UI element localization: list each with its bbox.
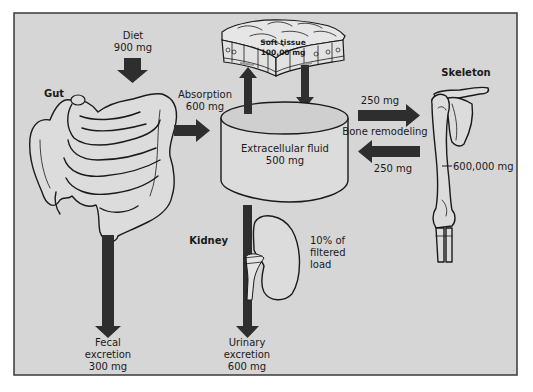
svg-text:100,00 mg: 100,00 mg <box>261 48 306 57</box>
diet-label: Diet <box>123 30 144 41</box>
svg-text:excretion: excretion <box>224 349 270 360</box>
bone-resorption-amount: 250 mg <box>374 163 412 174</box>
svg-text:excretion: excretion <box>85 349 131 360</box>
svg-text:300 mg: 300 mg <box>89 361 127 372</box>
svg-text:Absorption: Absorption <box>178 89 232 100</box>
gut-label: Gut <box>44 88 64 99</box>
kidney-label: Kidney <box>189 235 228 246</box>
svg-text:Soft tissue: Soft tissue <box>260 38 306 47</box>
svg-text:Urinary: Urinary <box>229 337 266 348</box>
urinary-excretion-label: Urinary excretion 600 mg <box>224 337 270 372</box>
svg-text:load: load <box>310 259 331 270</box>
diet-amount: 900 mg <box>114 42 152 53</box>
skeleton-label: Skeleton <box>441 67 490 78</box>
absorption-label: Absorption 600 mg <box>178 89 232 112</box>
bone-remodeling-label: Bone remodeling <box>342 126 427 137</box>
svg-text:500 mg: 500 mg <box>266 155 304 166</box>
svg-text:600 mg: 600 mg <box>228 361 266 372</box>
calcium-balance-diagram: Diet 900 mg Gut Fecal excretion 300 mg A… <box>0 0 533 392</box>
svg-text:600 mg: 600 mg <box>186 101 224 112</box>
svg-text:filtered: filtered <box>310 247 346 258</box>
svg-text:10% of: 10% of <box>310 235 346 246</box>
svg-text:Extracellular fluid: Extracellular fluid <box>241 143 329 154</box>
bone-deposition-amount: 250 mg <box>361 95 399 106</box>
skeleton-amount: 600,000 mg <box>453 161 514 172</box>
diagram-canvas: Diet 900 mg Gut Fecal excretion 300 mg A… <box>0 0 533 392</box>
svg-text:Fecal: Fecal <box>95 337 121 348</box>
soft-tissue-label: Soft tissue 100,00 mg <box>260 38 306 57</box>
ecf-to-soft-tissue-arrow-base <box>244 100 252 114</box>
